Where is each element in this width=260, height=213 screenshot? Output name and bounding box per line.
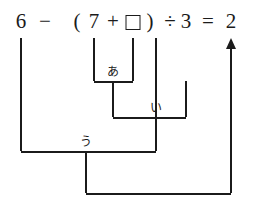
equation-token: ( (74, 10, 81, 32)
bracket-label-u: う (78, 136, 94, 148)
equation-token: − (39, 10, 51, 32)
equation-row: 6−(7+)÷3=2 (0, 0, 260, 40)
answer-box[interactable] (126, 15, 141, 30)
result-connector-bar (86, 193, 231, 195)
result-arrow-shaft (230, 40, 232, 193)
bracket-i-left-arm (112, 81, 114, 117)
equation-token: 6 (16, 10, 27, 32)
bracket-label-a: あ (105, 66, 121, 78)
bracket-i-right-arm (185, 81, 187, 117)
equation-token: ) (147, 10, 154, 32)
bracket-a-right-arm (132, 38, 134, 81)
equation-token: + (107, 10, 119, 32)
worksheet-canvas: 6−(7+)÷3=2 あいう (0, 0, 260, 213)
equation-token: = (202, 10, 214, 32)
bracket-u-left-arm (20, 38, 22, 151)
bracket-i-bar (113, 117, 186, 119)
equation-token: 3 (181, 10, 192, 32)
bracket-u-bar (21, 151, 156, 153)
equation-token: 7 (89, 10, 100, 32)
result-arrow-head (226, 38, 236, 49)
equation-token: 2 (226, 10, 237, 32)
bracket-u-right-arm (155, 38, 157, 151)
equation-token: ÷ (164, 10, 176, 32)
bracket-a-left-arm (93, 38, 95, 81)
bracket-u-stem (85, 151, 87, 193)
